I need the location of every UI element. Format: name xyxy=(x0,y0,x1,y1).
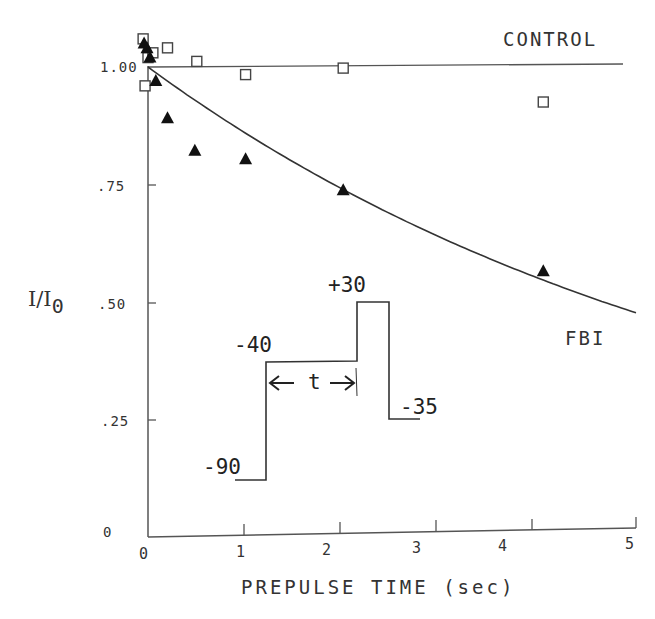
y-tick-label-100: 1.00 xyxy=(100,60,138,74)
y-axis-title-main: I/I xyxy=(28,287,52,311)
x-tick-label-0: 0 xyxy=(139,547,148,562)
fbi-marker-triangle xyxy=(188,144,201,156)
x-tick-label-2: 2 xyxy=(322,543,331,558)
control-marker-square xyxy=(241,70,251,80)
x-axis xyxy=(148,528,636,537)
control-marker-square xyxy=(192,56,202,66)
y-tick-label-075: .75 xyxy=(97,179,125,193)
fbi-marker-triangle xyxy=(537,264,550,276)
control-series-label: CONTROL xyxy=(503,30,597,49)
inset-level-minus35: -35 xyxy=(400,397,438,418)
control-data-points xyxy=(138,34,548,107)
inset-interval-label: t xyxy=(308,372,321,393)
control-marker-square xyxy=(338,63,348,73)
control-marker-square xyxy=(538,97,548,107)
x-tick-label-3: 3 xyxy=(412,541,421,556)
inset-level-minus90: -90 xyxy=(203,457,241,478)
fbi-marker-triangle xyxy=(239,152,252,164)
fbi-fit-curve xyxy=(148,67,636,313)
y-tick-label-025: .25 xyxy=(101,414,129,428)
inset-level-minus40: -40 xyxy=(234,335,272,356)
y-tick-label-0: 0 xyxy=(103,525,112,539)
control-marker-square xyxy=(140,81,150,91)
inset-level-plus30: +30 xyxy=(328,275,366,296)
y-ticks xyxy=(148,185,156,420)
inset-voltage-protocol xyxy=(235,302,420,480)
y-axis-title-subscript: 0 xyxy=(52,294,64,318)
x-tick-label-1: 1 xyxy=(236,545,245,560)
x-tick-label-5: 5 xyxy=(625,537,634,552)
y-tick-label-050: .50 xyxy=(98,297,126,311)
fbi-marker-triangle xyxy=(337,183,350,195)
control-marker-square xyxy=(163,43,173,53)
control-fit-line xyxy=(148,64,623,67)
x-axis-title: PREPULSE TIME (sec) xyxy=(241,578,515,597)
fbi-series-label: FBI xyxy=(565,329,605,348)
fbi-marker-triangle xyxy=(161,111,174,123)
y-axis-title: I/I0 xyxy=(28,289,64,316)
x-tick-label-4: 4 xyxy=(498,539,507,554)
